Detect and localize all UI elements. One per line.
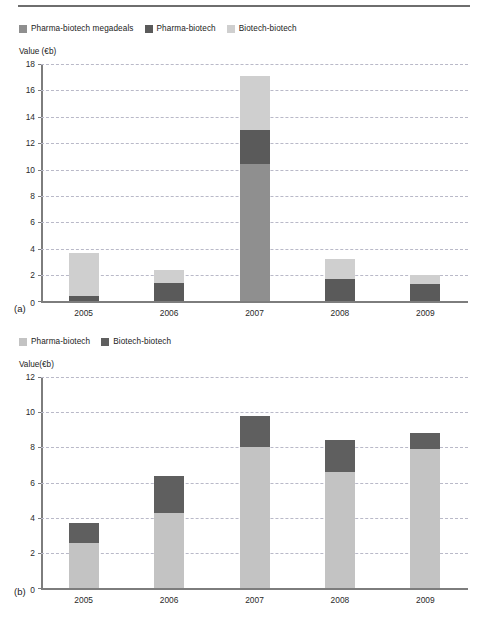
chart-a-plot-area: 02468101214161820052006200720082009	[41, 64, 468, 303]
y-axis-tick	[38, 412, 42, 413]
legend-label: Pharma-biotech megadeals	[31, 24, 134, 33]
legend-label: Biotech-biotech	[113, 337, 171, 346]
bar-stack	[410, 433, 440, 588]
legend-item: Pharma-biotech	[19, 337, 90, 346]
y-axis-tick-label: 8	[30, 442, 35, 452]
legend-swatch-icon	[101, 338, 109, 346]
y-axis-tick	[38, 377, 42, 378]
panel-label-b: (b)	[14, 586, 26, 597]
x-axis-tick-label: 2008	[331, 595, 350, 605]
x-axis-tick-label: 2009	[416, 595, 435, 605]
legend-item: Pharma-biotech megadeals	[19, 24, 134, 33]
y-axis-tick	[38, 222, 42, 223]
y-axis-tick-label: 4	[30, 513, 35, 523]
y-axis-tick-label: 2	[30, 270, 35, 280]
x-axis-tick-label: 2009	[416, 308, 435, 318]
bar-segment	[410, 275, 440, 284]
bar-stack	[154, 476, 184, 589]
bar-segment	[240, 164, 270, 301]
grid-line	[41, 64, 468, 65]
x-axis-tick-label: 2006	[160, 308, 179, 318]
y-axis-tick	[38, 588, 42, 589]
bar-segment	[240, 76, 270, 130]
x-axis-tick-label: 2005	[74, 595, 93, 605]
x-axis-line	[41, 588, 468, 590]
legend-swatch-icon	[19, 338, 27, 346]
bar-stack	[154, 270, 184, 302]
legend-item: Biotech-biotech	[101, 337, 171, 346]
legend-chart-b: Pharma-biotechBiotech-biotech	[19, 337, 182, 346]
y-axis-tick	[38, 196, 42, 197]
legend-item: Biotech-biotech	[227, 24, 297, 33]
x-axis-tick-label: 2007	[245, 308, 264, 318]
bar-stack	[325, 440, 355, 588]
bar-segment	[69, 296, 99, 301]
bar-segment	[325, 472, 355, 588]
bar-segment	[325, 259, 355, 279]
bar-stack	[410, 275, 440, 301]
y-axis-tick-label: 4	[30, 244, 35, 254]
legend-swatch-icon	[145, 25, 153, 33]
bar-segment	[69, 543, 99, 589]
panel-label-a: (a)	[14, 303, 26, 314]
bar-stack	[69, 253, 99, 302]
y-axis-tick	[38, 143, 42, 144]
x-axis-tick-label: 2005	[74, 308, 93, 318]
y-axis-tick	[38, 170, 42, 171]
y-axis-tick-label: 12	[26, 372, 35, 382]
bar-segment	[154, 476, 184, 513]
x-axis-tick-label: 2006	[160, 595, 179, 605]
bar-segment	[325, 279, 355, 301]
y-axis-tick	[38, 518, 42, 519]
x-axis-tick-label: 2007	[245, 595, 264, 605]
x-axis-line	[41, 301, 468, 303]
legend-item: Pharma-biotech	[145, 24, 216, 33]
y-axis-tick	[38, 447, 42, 448]
y-axis-tick	[38, 117, 42, 118]
legend-label: Pharma-biotech	[157, 24, 216, 33]
top-divider-rule	[18, 5, 470, 7]
bar-segment	[154, 513, 184, 589]
y-axis-tick-label: 6	[30, 217, 35, 227]
x-axis-tick-label: 2008	[331, 308, 350, 318]
y-axis-tick-label: 6	[30, 478, 35, 488]
bar-segment	[410, 284, 440, 301]
bar-segment	[325, 440, 355, 472]
y-axis-tick-label: 16	[26, 85, 35, 95]
y-axis-tick	[38, 483, 42, 484]
bar-stack	[325, 259, 355, 301]
y-axis-tick-label: 2	[30, 548, 35, 558]
legend-chart-a: Pharma-biotech megadealsPharma-biotechBi…	[19, 24, 308, 33]
y-axis-title-b: Value(€b)	[19, 360, 54, 369]
legend-label: Pharma-biotech	[31, 337, 90, 346]
y-axis-tick-label: 12	[26, 138, 35, 148]
chart-b-plot-area: 02468101220052006200720082009	[41, 377, 468, 590]
y-axis-tick-label: 0	[30, 585, 35, 595]
bar-segment	[240, 416, 270, 448]
bar-stack	[69, 523, 99, 588]
y-axis-tick-label: 10	[26, 165, 35, 175]
y-axis-tick-label: 14	[26, 112, 35, 122]
y-axis-tick	[38, 275, 42, 276]
y-axis-tick	[38, 301, 42, 302]
bar-segment	[240, 447, 270, 588]
bar-segment	[410, 449, 440, 588]
y-axis-line	[41, 64, 43, 303]
y-axis-tick	[38, 64, 42, 65]
y-axis-tick-label: 8	[30, 191, 35, 201]
y-axis-tick	[38, 90, 42, 91]
grid-line	[41, 412, 468, 413]
bar-segment	[69, 523, 99, 542]
legend-swatch-icon	[227, 25, 235, 33]
y-axis-tick-label: 10	[26, 407, 35, 417]
y-axis-tick	[38, 553, 42, 554]
y-axis-tick	[38, 249, 42, 250]
bar-segment	[154, 283, 184, 301]
bar-stack	[240, 416, 270, 589]
y-axis-tick-label: 0	[30, 298, 35, 308]
legend-label: Biotech-biotech	[239, 24, 297, 33]
bar-segment	[154, 270, 184, 283]
figure-page: Pharma-biotech megadealsPharma-biotechBi…	[0, 0, 486, 617]
y-axis-tick-label: 18	[26, 59, 35, 69]
legend-swatch-icon	[19, 25, 27, 33]
